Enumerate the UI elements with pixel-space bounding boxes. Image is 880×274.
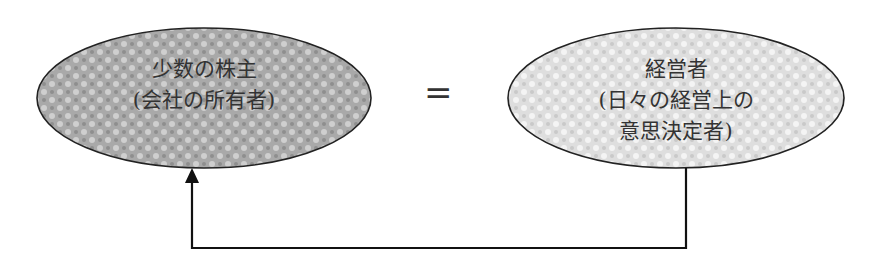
left-node-label: 少数の株主 (会社の所有者): [104, 54, 304, 116]
connector-line: [192, 168, 686, 248]
right-node-line-1: 経営者: [576, 54, 776, 85]
arrowhead-icon: [185, 168, 199, 183]
right-node-label: 経営者 (日々の経営上の 意思決定者): [576, 54, 776, 147]
equals-sign: =: [424, 72, 453, 112]
right-node-line-3: 意思決定者): [576, 116, 776, 147]
right-node-line-2: (日々の経営上の: [576, 85, 776, 116]
left-node-line-2: (会社の所有者): [104, 85, 304, 116]
left-node-line-1: 少数の株主: [104, 54, 304, 85]
